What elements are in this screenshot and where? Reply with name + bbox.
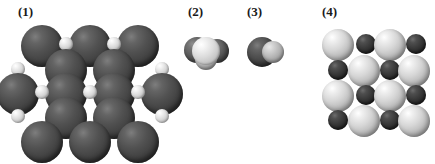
atom-sphere-small-black: [380, 110, 400, 130]
atom-sphere-small-black: [328, 110, 348, 130]
atom-sphere-large-pale: [398, 105, 430, 137]
atom-sphere-small-black: [406, 34, 426, 54]
atom-sphere-dim-light: [262, 41, 284, 63]
panel-label-3: (3): [247, 5, 262, 18]
panel-label-1: (1): [18, 5, 33, 18]
atom-sphere-small-black: [328, 60, 348, 80]
atom-sphere-large-pale: [348, 55, 380, 87]
atom-sphere-large-pale: [322, 29, 354, 61]
atom-sphere-small-black: [406, 85, 426, 105]
figure-canvas: (1)(2)(3)(4): [0, 0, 435, 164]
atom-sphere-large-pale: [348, 105, 380, 137]
atom-sphere-large-dark: [21, 121, 63, 163]
atom-sphere-large-dark: [69, 121, 111, 163]
atom-sphere-large-pale: [398, 55, 430, 87]
atom-sphere-small-light: [11, 109, 25, 123]
atom-sphere-small-black: [380, 60, 400, 80]
panel-label-2: (2): [188, 5, 203, 18]
panel-label-4: (4): [322, 5, 337, 18]
atom-sphere-large-pale: [322, 80, 354, 112]
atom-sphere-large-pale: [374, 80, 406, 112]
atom-sphere-small-light: [35, 85, 49, 99]
molecular-model-1: [12, 24, 154, 152]
atom-sphere-small-light: [83, 85, 97, 99]
atom-sphere-small-light: [131, 85, 145, 99]
molecular-model-4: [318, 30, 422, 134]
atom-sphere-large-dark: [117, 121, 159, 163]
atom-sphere-small-light: [155, 109, 169, 123]
molecular-model-2: [184, 33, 232, 73]
atom-sphere-small-black: [356, 34, 376, 54]
atom-sphere-large-pale: [374, 29, 406, 61]
molecular-model-3: [243, 33, 287, 73]
atom-sphere-small-black: [356, 85, 376, 105]
atom-sphere-small-light: [192, 37, 220, 65]
